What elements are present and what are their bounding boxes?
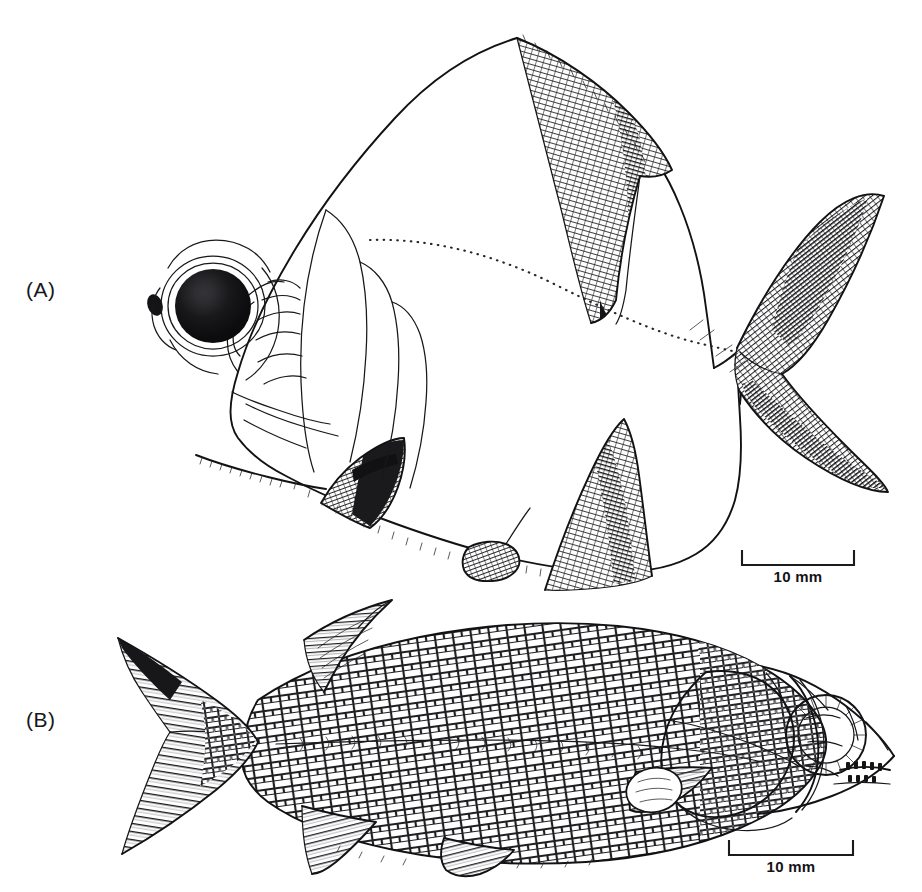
figure-plate: (A) (B) 10 mm 10 mm	[0, 0, 922, 892]
scale-bar-panel-b: 10 mm	[725, 838, 857, 882]
scale-bar-b-graphic	[725, 838, 857, 860]
panel-label-a: (A)	[26, 278, 56, 302]
panel-b-illustration	[0, 0, 922, 892]
panel-label-b: (B)	[26, 708, 56, 732]
scale-bar-b-label: 10 mm	[725, 858, 857, 875]
scale-bar-panel-a: 10 mm	[738, 548, 858, 592]
scale-bar-a-graphic	[738, 548, 858, 570]
scale-bar-a-label: 10 mm	[738, 568, 858, 585]
